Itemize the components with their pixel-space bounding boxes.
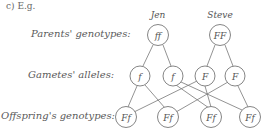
parent-name-steve: Steve xyxy=(207,10,233,20)
punnett-tree-diagram: Jen Steve ff FF f f F F Ff Ff Ff Ff xyxy=(0,0,262,131)
gamete-node: f xyxy=(163,66,183,86)
parent-node-jen: ff xyxy=(148,25,169,46)
offspring-node: Ff xyxy=(116,107,137,128)
parent-genotype: FF xyxy=(213,31,227,41)
svg-text:Ff: Ff xyxy=(205,113,217,123)
svg-text:F: F xyxy=(231,72,239,82)
offspring-node: Ff xyxy=(240,107,261,128)
svg-text:Ff: Ff xyxy=(162,113,174,123)
svg-text:Ff: Ff xyxy=(120,113,132,123)
svg-text:F: F xyxy=(201,72,209,82)
offspring-node: Ff xyxy=(201,107,222,128)
gamete-node: f xyxy=(130,66,150,86)
gamete-node: F xyxy=(225,66,245,86)
parent-node-steve: FF xyxy=(210,25,231,46)
offspring-node: Ff xyxy=(158,107,179,128)
parent-name-jen: Jen xyxy=(149,10,166,20)
gamete-node: F xyxy=(195,66,215,86)
svg-text:Ff: Ff xyxy=(244,113,256,123)
